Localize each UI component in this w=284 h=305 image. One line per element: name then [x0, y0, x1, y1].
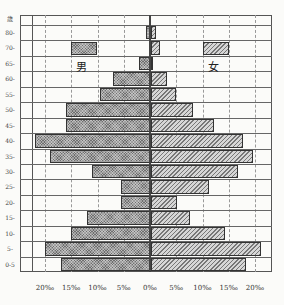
age-label: 15-	[1, 215, 19, 221]
age-label: 0-5	[1, 262, 19, 268]
x-tick-label: 10‰	[88, 284, 106, 292]
age-label: 80-	[1, 30, 19, 36]
age-label: 65-	[1, 61, 19, 67]
female-bar	[151, 196, 177, 209]
male-bar	[35, 134, 151, 147]
age-label: 55-	[1, 92, 19, 98]
x-tick-label: 15‰	[62, 284, 80, 292]
age-label: 60-	[1, 76, 19, 82]
female-bar	[151, 150, 253, 163]
male-bar	[121, 196, 150, 209]
population-pyramid-chart: 80-70-65-60-55-50-45-40-35-30-25-20-15-1…	[0, 0, 284, 305]
male-bar	[87, 211, 150, 224]
legend-male-label: 男	[76, 58, 87, 74]
age-label: 35-	[1, 154, 19, 160]
female-bar	[151, 180, 209, 193]
female-bar	[151, 134, 243, 147]
x-tick-label: 20‰	[246, 284, 264, 292]
male-bar	[66, 103, 150, 116]
age-label: 50-	[1, 107, 19, 113]
age-label: 30-	[1, 169, 19, 175]
x-tick-label: 5‰	[169, 284, 183, 292]
female-bar	[151, 72, 167, 85]
age-label: 40-	[1, 138, 19, 144]
legend-female-label: 女	[208, 58, 219, 74]
female-bar	[151, 88, 176, 101]
female-bar	[151, 258, 246, 271]
female-bar	[151, 211, 190, 224]
age-label: 5-	[1, 246, 19, 252]
male-bar	[71, 227, 150, 240]
male-bar	[113, 72, 150, 85]
male-bar	[50, 150, 150, 163]
male-bar	[45, 242, 150, 255]
age-label: 45-	[1, 123, 19, 129]
age-header: 歳	[1, 16, 19, 22]
age-label: 70-	[1, 45, 19, 51]
male-bar	[100, 88, 150, 101]
x-tick-label: 20‰	[36, 284, 54, 292]
age-label: 10-	[1, 231, 19, 237]
female-bar	[151, 41, 160, 54]
female-bar	[151, 242, 261, 255]
age-row	[20, 40, 272, 55]
x-tick-label: 5‰	[117, 284, 131, 292]
male-bar	[61, 258, 150, 271]
legend-male-swatch	[71, 42, 97, 55]
age-label: 20-	[1, 200, 19, 206]
legend-female-swatch	[203, 42, 229, 55]
x-tick-label: 0‰	[143, 284, 157, 292]
male-bar	[66, 119, 150, 132]
x-tick-label: 10‰	[193, 284, 211, 292]
x-tick-label: 15‰	[220, 284, 238, 292]
male-bar	[92, 165, 150, 178]
female-bar	[151, 227, 225, 240]
center-axis	[149, 15, 151, 272]
female-bar	[151, 26, 156, 39]
female-bar	[151, 165, 238, 178]
female-bar	[151, 119, 214, 132]
male-bar	[121, 180, 150, 193]
age-label: 25-	[1, 184, 19, 190]
female-bar	[151, 103, 193, 116]
female-bar	[151, 57, 153, 70]
